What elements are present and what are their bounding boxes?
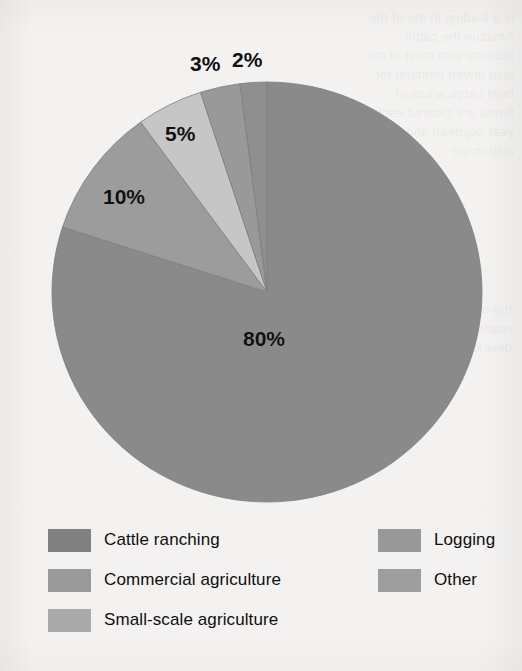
legend-item-label: Other <box>434 570 477 590</box>
legend-column-right: LoggingOther <box>378 520 495 600</box>
slice-value-label: 10% <box>103 185 145 209</box>
legend-item-label: Small-scale agriculture <box>104 610 278 630</box>
legend-color-swatch <box>378 569 421 592</box>
slice-value-label: 5% <box>165 122 195 146</box>
slice-value-label: 2% <box>232 48 262 72</box>
legend-item-label: Commercial agriculture <box>104 570 281 590</box>
legend-item: Other <box>378 560 495 600</box>
legend-column-left: Cattle ranchingCommercial agricultureSma… <box>48 520 281 640</box>
legend-color-swatch <box>48 609 91 632</box>
pie-chart: 80%10%5%3%2% <box>0 0 522 516</box>
legend-item-label: Cattle ranching <box>104 530 220 550</box>
slice-value-label: 80% <box>243 327 285 351</box>
legend-item: Cattle ranching <box>48 520 281 560</box>
legend-item: Small-scale agriculture <box>48 600 281 640</box>
slice-value-label: 3% <box>190 52 220 76</box>
legend-item-label: Logging <box>434 530 495 550</box>
legend-item: Logging <box>378 520 495 560</box>
legend-color-swatch <box>48 529 91 552</box>
chart-legend: Cattle ranchingCommercial agricultureSma… <box>0 520 522 671</box>
legend-item: Commercial agriculture <box>48 560 281 600</box>
pie-chart-svg <box>0 0 522 516</box>
legend-color-swatch <box>48 569 91 592</box>
legend-color-swatch <box>378 529 421 552</box>
